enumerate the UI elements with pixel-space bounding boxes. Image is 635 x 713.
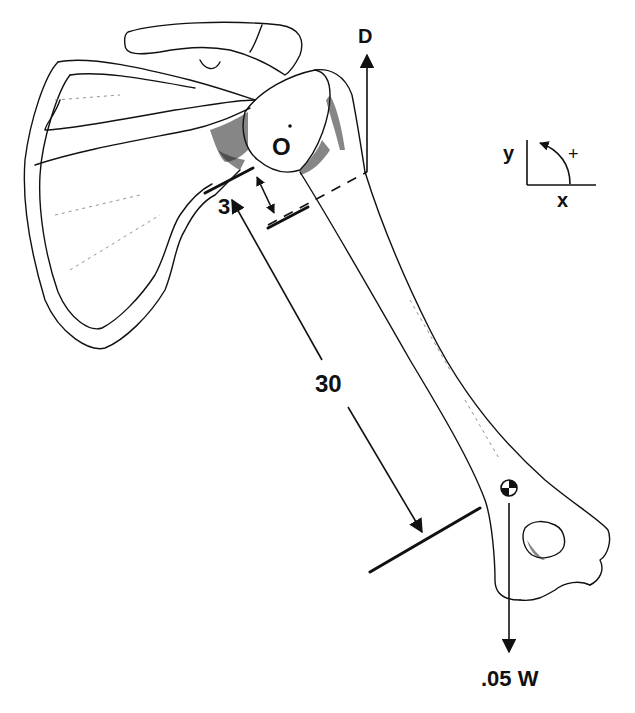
joint-center-dot — [288, 124, 292, 128]
dimension-tick-insertion — [268, 207, 308, 228]
humerus-head — [243, 70, 365, 175]
short-distance-label: 3 — [218, 194, 230, 219]
deltoid-force-label: D — [358, 25, 372, 47]
center-of-mass: .05 W — [481, 480, 539, 691]
dimension-tick-com — [370, 508, 480, 572]
diagram-canvas: O D 3 30 .05 W y x + — [0, 0, 635, 713]
dimension-short: 3 — [205, 168, 308, 228]
joint-center: O — [272, 124, 292, 160]
dimension-tick-joint — [205, 168, 253, 193]
rotation-sign-label: + — [568, 144, 579, 164]
insertion-dashed-line — [268, 172, 367, 225]
arm-weight-label: .05 W — [481, 666, 539, 691]
axis-y-label: y — [503, 142, 515, 164]
joint-center-label: O — [272, 133, 291, 160]
humerus-shaft — [300, 172, 610, 600]
coordinate-axes: y x + — [503, 140, 596, 211]
rotation-arrow-icon — [540, 143, 570, 184]
dimension-long: 30 — [232, 200, 480, 572]
long-distance-label: 30 — [315, 370, 342, 397]
axis-x-label: x — [557, 189, 568, 211]
deltoid-force-arrow: D — [358, 25, 372, 172]
